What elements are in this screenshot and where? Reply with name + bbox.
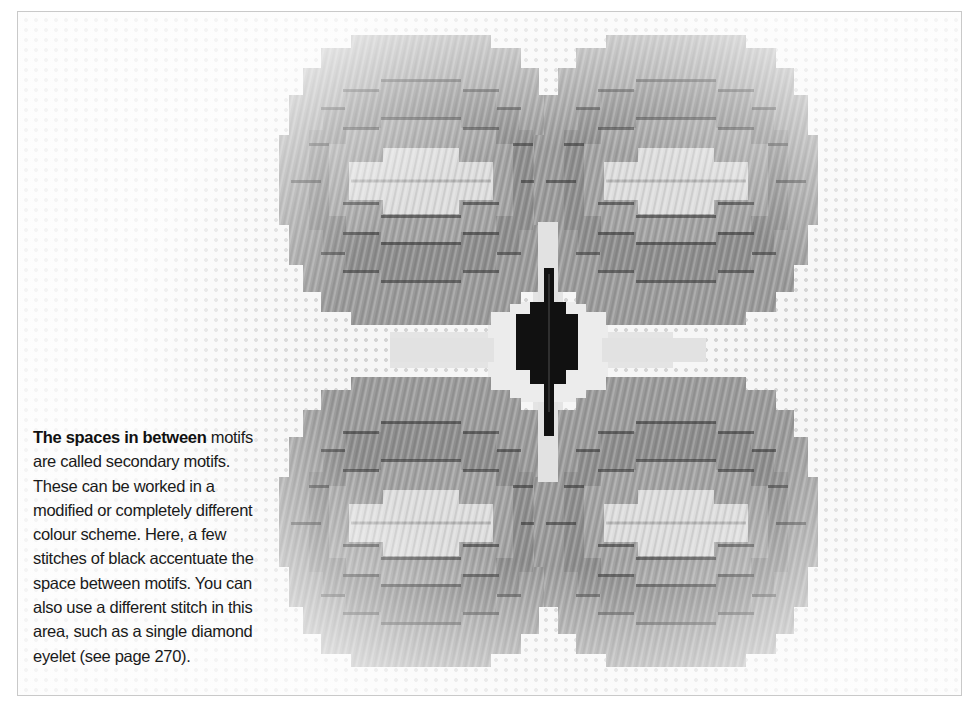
caption-lead: The spaces in between [33,428,206,446]
caption-text: motifs are called secondary motifs. Thes… [33,428,254,665]
motif-top-left [279,35,563,325]
caption: The spaces in between motifs are called … [33,425,278,668]
motif-top-right [534,35,818,325]
motif-bottom-right [534,377,818,667]
motif-bottom-left [279,377,563,667]
